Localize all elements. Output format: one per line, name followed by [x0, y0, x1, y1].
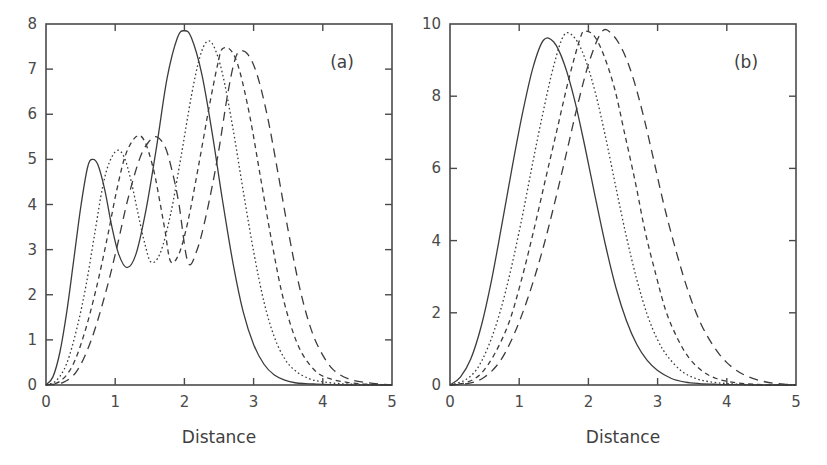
x-tick-label: 0 [445, 393, 455, 411]
data-curve-curve-1 [450, 38, 796, 385]
panel-b-svg: 0123450246810(b)Distance [0, 0, 827, 465]
data-curve-curve-4 [450, 30, 796, 385]
panel-label: (b) [734, 52, 758, 72]
y-tick-label: 6 [431, 159, 441, 177]
panel-b: 0123450246810(b)Distance [0, 0, 827, 465]
y-tick-label: 2 [431, 304, 441, 322]
y-tick-label: 4 [431, 232, 441, 250]
x-tick-label: 2 [584, 393, 594, 411]
data-curve-curve-2 [450, 33, 796, 385]
x-tick-label: 1 [514, 393, 524, 411]
y-tick-label: 10 [422, 15, 441, 33]
x-tick-label: 5 [791, 393, 801, 411]
y-tick-label: 0 [431, 376, 441, 394]
data-curve-curve-3 [450, 31, 796, 385]
x-tick-label: 4 [722, 393, 732, 411]
figure-container: 012345012345678(a)Distance 0123450246810… [0, 0, 827, 465]
x-tick-label: 3 [653, 393, 663, 411]
x-axis-title: Distance [586, 427, 660, 447]
y-tick-label: 8 [431, 87, 441, 105]
